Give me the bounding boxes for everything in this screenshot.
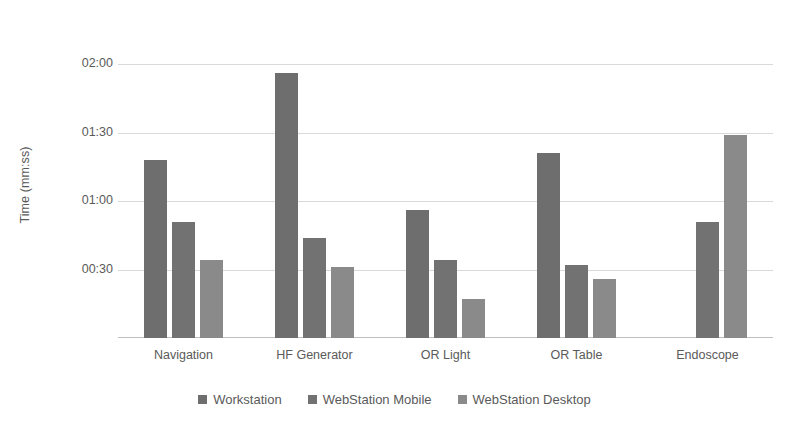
y-axis-tick-label: 00:30 [43, 262, 113, 276]
bar [434, 260, 457, 338]
gridline [118, 64, 773, 65]
bar [331, 267, 354, 338]
legend-label: WebStation Mobile [323, 392, 432, 407]
legend-swatch-icon [308, 395, 317, 404]
y-axis-tick-label: 02:00 [43, 56, 113, 70]
x-axis-category-label: OR Table [551, 348, 603, 362]
bar [565, 265, 588, 338]
bar [275, 73, 298, 338]
legend-swatch-icon [458, 395, 467, 404]
plot-area [118, 30, 773, 338]
bar-chart: Time (mm:ss) 02:0001:3001:0000:30 Naviga… [0, 0, 789, 438]
bar [724, 135, 747, 338]
bar [200, 260, 223, 338]
x-axis-category-label: Endoscope [676, 348, 739, 362]
x-axis-category-label: HF Generator [276, 348, 352, 362]
legend-label: WebStation Desktop [473, 392, 591, 407]
bar [303, 238, 326, 338]
x-axis-category-label: Navigation [154, 348, 213, 362]
chart-legend: WorkstationWebStation MobileWebStation D… [0, 392, 789, 407]
bar [172, 222, 195, 338]
legend-label: Workstation [213, 392, 281, 407]
legend-item[interactable]: WebStation Mobile [308, 392, 432, 407]
bar [462, 299, 485, 338]
y-axis-tick-label: 01:30 [43, 125, 113, 139]
bar [406, 210, 429, 338]
legend-item[interactable]: Workstation [198, 392, 281, 407]
gridline [118, 201, 773, 202]
y-axis-tick-label: 01:00 [43, 193, 113, 207]
x-axis-category-label: OR Light [421, 348, 470, 362]
legend-swatch-icon [198, 395, 207, 404]
gridline [118, 133, 773, 134]
bar [537, 153, 560, 338]
bar [696, 222, 719, 338]
bar [144, 160, 167, 338]
bar [593, 279, 616, 338]
y-axis-title: Time (mm:ss) [18, 115, 32, 255]
legend-item[interactable]: WebStation Desktop [458, 392, 591, 407]
